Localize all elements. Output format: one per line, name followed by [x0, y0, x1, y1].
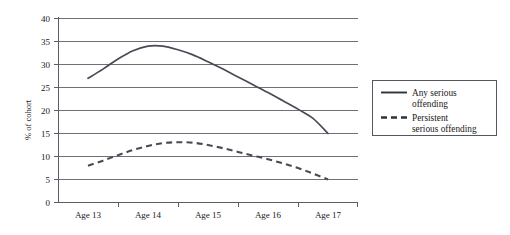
y-tick-label-5: 5	[46, 175, 51, 185]
x-tick-label-age-14: Age 14	[135, 210, 162, 220]
y-tick-label-35: 35	[41, 37, 51, 47]
legend-label-any-serious-offending-line1: Any serious	[412, 88, 457, 98]
chart-container: 40 35 30 25 20 15 10 5 0 % of cohort Age…	[0, 0, 510, 235]
legend-label-persistent-serious-offending-line1: Persistent	[412, 113, 449, 123]
series-line-persistent-serious-offending	[88, 142, 328, 179]
y-axis-title: % of cohort	[23, 99, 33, 140]
x-tick-label-age-15: Age 15	[195, 210, 222, 220]
y-tick-label-0: 0	[46, 198, 51, 208]
legend-label-any-serious-offending-line2: offending	[412, 99, 448, 109]
y-tick-label-15: 15	[41, 129, 51, 139]
y-tick-label-20: 20	[41, 106, 51, 116]
x-tick-marks	[119, 203, 358, 208]
y-tick-marks	[54, 19, 59, 203]
line-chart: 40 35 30 25 20 15 10 5 0 % of cohort Age…	[0, 0, 510, 235]
x-tick-label-age-16: Age 16	[255, 210, 282, 220]
legend-label-persistent-serious-offending-line2: serious offending	[412, 124, 477, 134]
chart-legend: Any serious offending Persistent serious…	[373, 81, 497, 136]
y-tick-label-40: 40	[41, 14, 51, 24]
series-line-any-serious-offending	[88, 46, 328, 134]
x-tick-label-age-17: Age 17	[315, 210, 342, 220]
x-tick-label-age-13: Age 13	[75, 210, 102, 220]
gridlines	[59, 19, 359, 180]
y-tick-label-25: 25	[41, 83, 51, 93]
y-tick-label-10: 10	[41, 152, 51, 162]
y-tick-label-30: 30	[41, 60, 51, 70]
